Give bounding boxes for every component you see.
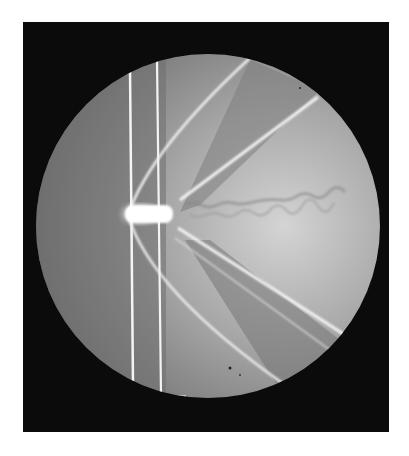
shadowgraph-photo <box>0 0 409 456</box>
